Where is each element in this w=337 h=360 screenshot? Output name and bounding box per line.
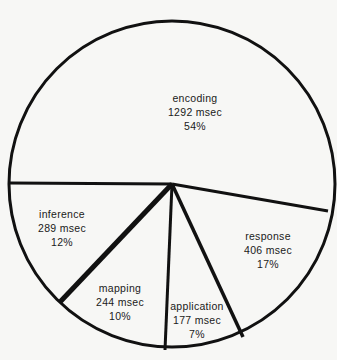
slice-value: 289 msec [38,222,86,234]
slice-percent: 10% [109,310,131,322]
slice-value: 244 msec [96,296,144,308]
slice-value: 406 msec [244,244,292,256]
slice-name: mapping [99,282,141,294]
slice-percent: 17% [257,258,279,270]
slice-name: application [170,300,224,312]
slice-name: inference [39,208,85,220]
divider-encoding-inference [10,183,172,184]
slice-percent: 54% [184,120,206,132]
slice-name: response [245,230,291,242]
slice-percent: 7% [189,328,205,340]
pie-chart: encoding 1292 msec 54% response 406 msec… [0,0,337,360]
slice-value: 1292 msec [168,106,222,118]
slice-percent: 12% [51,236,73,248]
slice-value: 177 msec [173,314,221,326]
slice-name: encoding [172,92,217,104]
